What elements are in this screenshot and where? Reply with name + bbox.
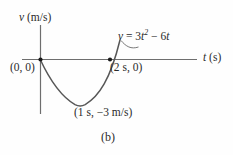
- y-axis-label: v (m/s): [19, 12, 51, 24]
- marker-origin: [38, 57, 42, 61]
- curve-equation-label: v = 3t2 − 6t: [118, 29, 169, 42]
- equation-minus: −: [148, 30, 160, 42]
- velocity-curve: [40, 40, 120, 106]
- velocity-time-figure: v (m/s) t (s) (0, 0) (2 s, 0) (1 s, −3 m…: [0, 0, 233, 155]
- equation-variable-b: t: [166, 30, 169, 42]
- x-axis-label-units: (s): [206, 51, 221, 63]
- point-label-origin: (0, 0): [10, 62, 35, 74]
- point-label-minimum: (1 s, −3 m/s): [74, 107, 132, 119]
- point-label-root-2s: (2 s, 0): [110, 62, 142, 74]
- y-axis-label-units: (m/s): [24, 11, 51, 23]
- x-axis-label: t (s): [203, 52, 221, 64]
- panel-caption: (b): [101, 131, 115, 143]
- equation-equals: =: [123, 30, 135, 42]
